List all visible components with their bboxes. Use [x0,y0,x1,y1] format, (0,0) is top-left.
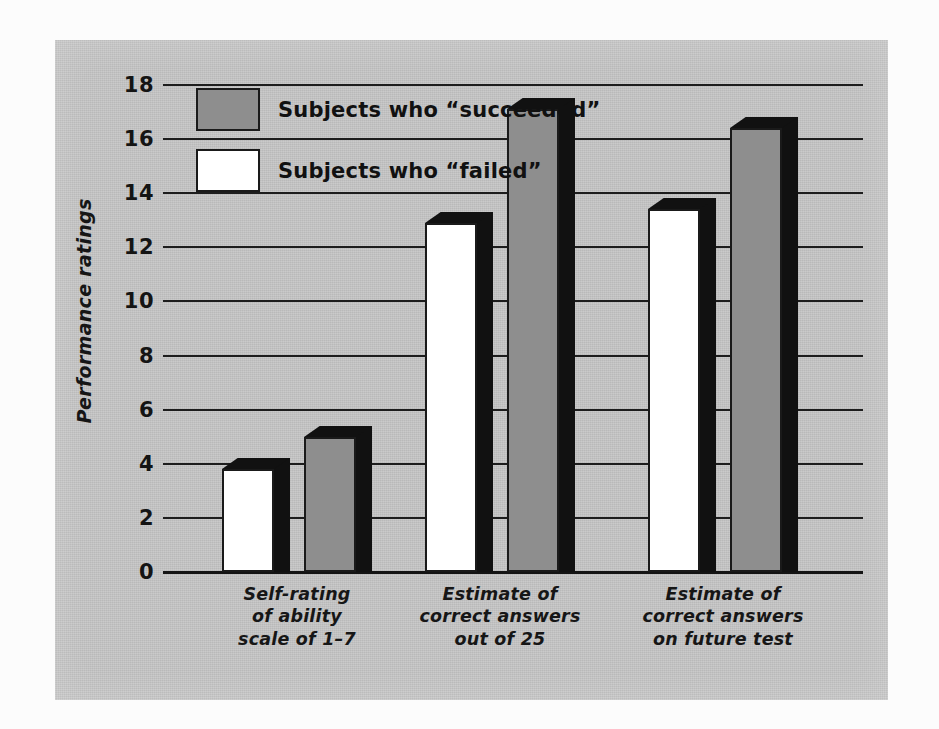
chart-legend: Subjects who “succeeded” Subjects who “f… [196,88,600,210]
x-axis-group-label: Self-ratingof abilityscale of 1–7 [187,583,407,650]
bar-failed [648,209,700,572]
bar-front-face [304,437,356,572]
legend-label-failed: Subjects who “failed” [278,159,542,183]
x-axis-group-label-line: Self-rating [187,583,407,605]
bar-side-shadow [356,426,372,572]
x-axis-group-label-line: correct answers [613,605,833,627]
y-axis-tick-label: 0 [114,560,154,584]
x-axis-group-label-line: Estimate of [390,583,610,605]
bar-side-shadow [274,458,290,572]
bar-failed [425,223,477,572]
x-axis-group-label-line: scale of 1–7 [187,628,407,650]
y-axis-tick-label: 4 [114,452,154,476]
gridline [163,84,863,86]
x-axis-group-label-line: on future test [613,628,833,650]
bar-front-face [730,128,782,572]
legend-item-succeeded: Subjects who “succeeded” [196,88,600,131]
figure-canvas: Performance ratings 024681012141618 Self… [0,0,939,729]
y-axis-title: Performance ratings [73,181,95,441]
y-axis-tick-label: 2 [114,506,154,530]
y-axis-tick-label: 8 [114,344,154,368]
legend-swatch-failed-icon [196,149,260,192]
bar-side-shadow [477,212,493,572]
y-axis-tick-label: 14 [114,181,154,205]
x-axis-group-label-line: correct answers [390,605,610,627]
x-axis-group-label-line: Estimate of [613,583,833,605]
legend-swatch-succeeded-icon [196,88,260,131]
legend-item-failed: Subjects who “failed” [196,149,600,192]
bar-front-face [648,209,700,572]
bar-front-face [222,469,274,572]
x-axis-group-label-line: of ability [187,605,407,627]
x-axis-group-label: Estimate ofcorrect answerson future test [613,583,833,650]
bar-front-face [425,223,477,572]
y-axis-tick-label: 18 [114,73,154,97]
x-axis-group-label: Estimate ofcorrect answersout of 25 [390,583,610,650]
plot-area: Performance ratings 024681012141618 Self… [0,0,939,729]
bar-failed [222,469,274,572]
y-axis-tick-label: 16 [114,127,154,151]
bar-side-shadow [782,117,798,572]
y-axis-tick-label: 10 [114,289,154,313]
y-axis-tick-label: 6 [114,398,154,422]
bar-succeeded [304,437,356,572]
x-axis-group-label-line: out of 25 [390,628,610,650]
bar-side-shadow [700,198,716,572]
y-axis-tick-label: 12 [114,235,154,259]
legend-label-succeeded: Subjects who “succeeded” [278,98,600,122]
bar-succeeded [730,128,782,572]
